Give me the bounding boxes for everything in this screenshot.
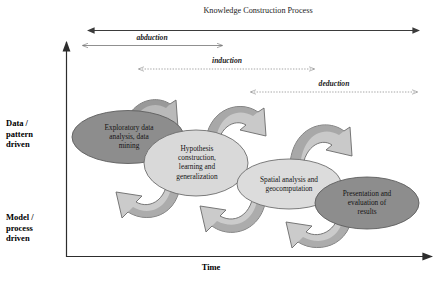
y-axis-top-label: Data / pattern driven xyxy=(6,118,60,150)
knowledge-construction-process-figure: Knowledge Construction Process abduction… xyxy=(0,0,447,281)
stage-ellipse-hypothesis-construction xyxy=(144,130,248,196)
y-axis-bottom-label: Model / process driven xyxy=(6,212,60,244)
knowledge-construction-process-label: Knowledge Construction Process xyxy=(178,6,338,15)
abduction-label: abduction xyxy=(112,33,192,42)
deduction-label: deduction xyxy=(294,79,374,88)
x-axis-label: Time xyxy=(176,262,246,273)
stage-ellipse-presentation-evaluation xyxy=(315,177,419,229)
diagram-canvas xyxy=(0,0,447,281)
induction-label: induction xyxy=(187,56,267,65)
